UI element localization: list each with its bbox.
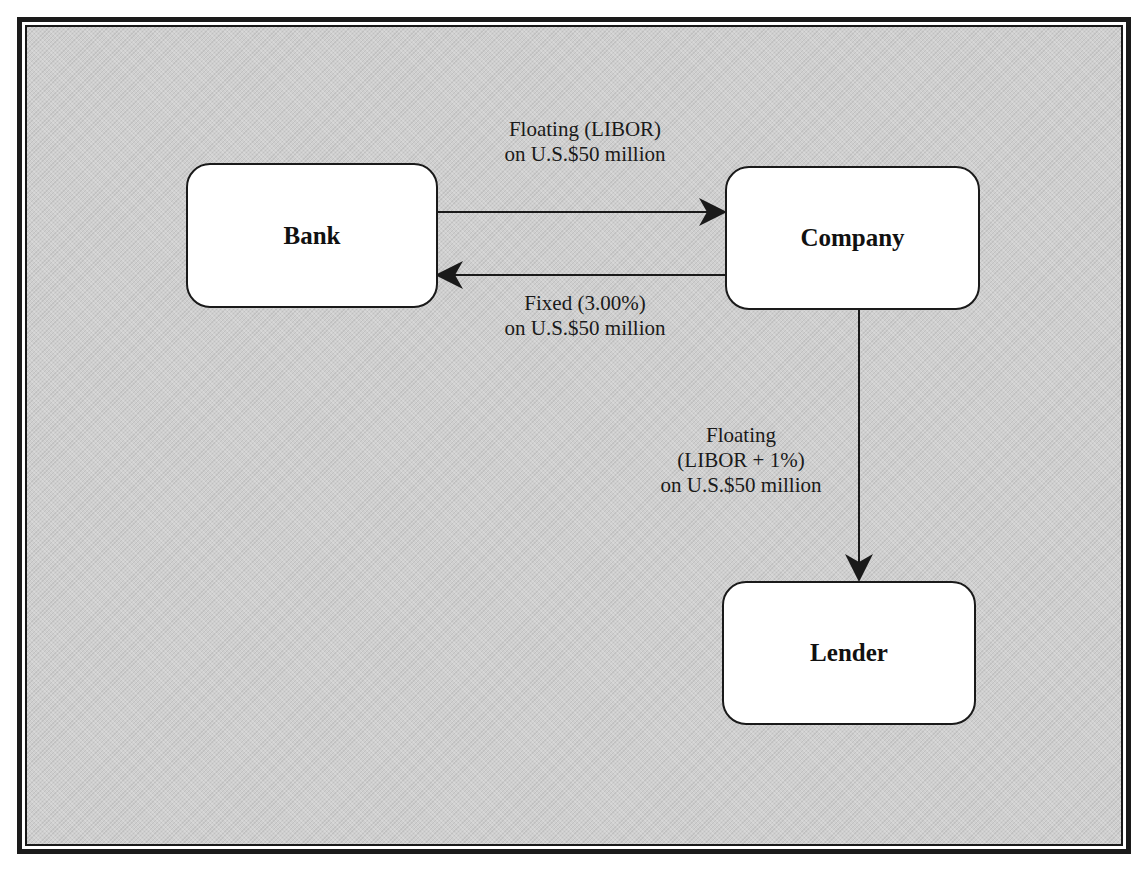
edge-label-company-to-lender: Floating (LIBOR + 1%) on U.S.$50 million — [636, 423, 846, 498]
node-company: Company — [725, 166, 980, 310]
edge-label-line: Fixed (3.00%) — [470, 291, 700, 316]
edge-label-line: Floating — [636, 423, 846, 448]
node-lender-label: Lender — [810, 639, 888, 667]
node-company-label: Company — [800, 224, 904, 252]
edge-label-line: on U.S.$50 million — [470, 142, 700, 167]
node-lender: Lender — [722, 581, 976, 725]
edge-label-line: Floating (LIBOR) — [470, 117, 700, 142]
edge-label-line: (LIBOR + 1%) — [636, 448, 846, 473]
edge-label-line: on U.S.$50 million — [470, 316, 700, 341]
edge-label-line: on U.S.$50 million — [636, 473, 846, 498]
node-bank-label: Bank — [284, 222, 341, 250]
edge-label-company-to-bank: Fixed (3.00%) on U.S.$50 million — [470, 291, 700, 341]
edge-label-bank-to-company: Floating (LIBOR) on U.S.$50 million — [470, 117, 700, 167]
node-bank: Bank — [186, 163, 438, 308]
